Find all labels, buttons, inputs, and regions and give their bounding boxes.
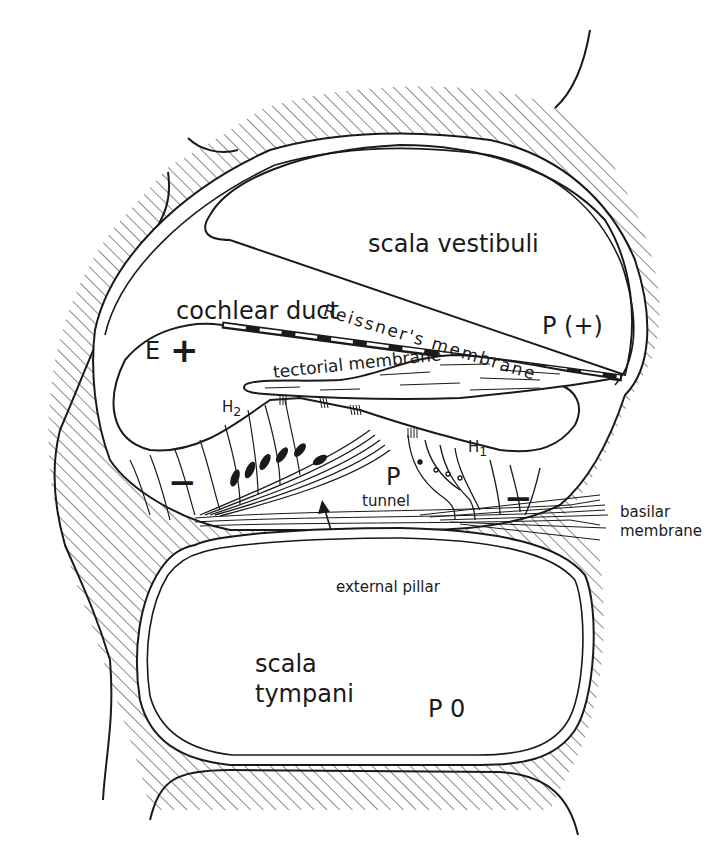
h2-letter: H <box>222 398 233 416</box>
positive-sign-icon: + <box>170 330 199 370</box>
endolymph-potential-label: E <box>145 337 160 365</box>
scala-vestibuli-label: scala vestibuli <box>368 230 539 258</box>
basilar-membrane-label-line2: membrane <box>620 522 702 540</box>
cochlea-diagram <box>0 0 728 848</box>
scala-tympani-label-line2: tympani <box>255 680 354 708</box>
tunnel-potential-label: P <box>386 463 400 491</box>
inner-hair-cells-label: H1 <box>468 438 487 459</box>
scala-tympani-potential: P 0 <box>428 695 465 723</box>
h2-subscript: 2 <box>233 404 241 419</box>
basilar-membrane-label-line1: basilar <box>620 503 670 521</box>
scala-tympani-outer <box>137 528 594 765</box>
cochlear-duct-label: cochlear duct <box>176 297 339 325</box>
h1-subscript: 1 <box>479 444 487 459</box>
scala-tympani-label-line1: scala <box>255 650 317 678</box>
outer-hair-cells-label: H2 <box>222 398 241 419</box>
tunnel-label: tunnel <box>362 492 410 510</box>
bone-outline-top-right <box>555 30 590 108</box>
h1-letter: H <box>468 438 479 456</box>
scala-vestibuli-potential: P (+) <box>542 312 603 340</box>
negative-sign-left-icon: − <box>168 462 197 502</box>
external-pillar-label: external pillar <box>336 578 440 596</box>
negative-sign-right-icon: − <box>504 478 533 518</box>
